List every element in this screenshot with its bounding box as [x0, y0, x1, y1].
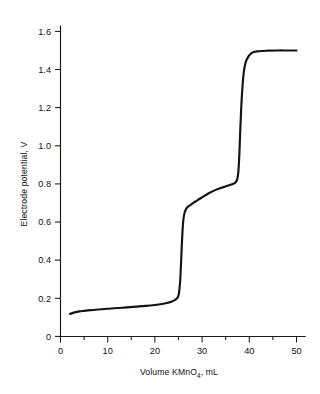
y-axis-label: Electrode potential, V: [19, 141, 29, 226]
y-tick-label: 1.4: [38, 65, 51, 75]
y-tick-label: 1.6: [38, 27, 51, 37]
y-tick-label: 1.2: [38, 103, 51, 113]
y-axis-ticks: [55, 31, 61, 336]
titration-curve-chart: Electrode potential, V 1.6 1.4 1.2 1.0 0…: [0, 0, 320, 394]
x-tick-label: 0: [58, 346, 63, 356]
y-tick-label: 0.8: [38, 179, 51, 189]
x-tick-label: 30: [197, 346, 207, 356]
x-axis-label-main: Volume KMnO: [140, 367, 197, 377]
x-axis-label: Volume KMnO4, mL: [140, 367, 218, 379]
y-tick-label: 0.2: [38, 294, 51, 304]
y-axis-label-text: Electrode potential, V: [19, 141, 29, 226]
x-axis-tick-labels: 0 10 20 30 40 50: [58, 346, 302, 356]
x-tick-label: 10: [103, 346, 113, 356]
x-axis-label-tail: , mL: [201, 367, 218, 377]
y-tick-label: 0.6: [38, 217, 51, 227]
y-axis-tick-labels: 1.6 1.4 1.2 1.0 0.8 0.6 0.4 0.2 0: [38, 27, 51, 342]
y-tick-label: 0: [46, 332, 51, 342]
y-tick-label: 1.0: [38, 141, 51, 151]
x-axis-label-text: Volume KMnO4, mL: [140, 367, 218, 379]
x-tick-label: 40: [244, 346, 254, 356]
x-tick-label: 50: [291, 346, 301, 356]
chart-figure: Electrode potential, V 1.6 1.4 1.2 1.0 0…: [0, 0, 320, 394]
y-tick-label: 0.4: [38, 255, 51, 265]
x-tick-label: 20: [150, 346, 160, 356]
data-series-line: [70, 50, 297, 313]
